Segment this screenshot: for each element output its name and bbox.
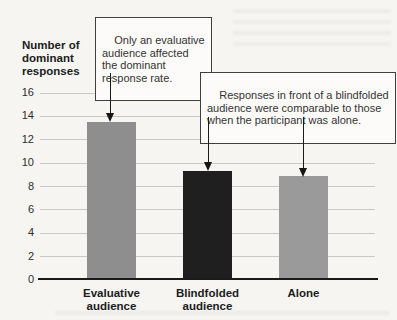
arrowhead-icon — [299, 168, 307, 177]
bar-evaluative-audience — [87, 122, 136, 280]
annotation-box-blindfolded-alone: Responses in front of a blindfolded audi… — [200, 72, 396, 144]
annotation-text: Only an evaluative audience affected the… — [102, 34, 205, 83]
y-tick-label: 16 — [4, 86, 34, 98]
x-axis-line — [38, 278, 378, 280]
arrow-to-blindfolded-bar — [208, 117, 210, 162]
scan-bleedthrough-artifact — [233, 6, 391, 52]
annotation-box-evaluative: Only an evaluative audience affected the… — [95, 17, 212, 101]
y-tick-label: 2 — [4, 250, 34, 262]
annotation-text: Responses in front of a blindfolded audi… — [207, 89, 389, 126]
y-tick-label: 8 — [4, 180, 34, 192]
arrowhead-icon — [106, 113, 114, 122]
bar-chart-figure: Number of dominant responses 02468101214… — [0, 0, 397, 320]
y-tick-label: 6 — [4, 203, 34, 215]
y-tick-label: 14 — [4, 109, 34, 121]
arrow-to-alone-bar — [303, 117, 305, 168]
x-category-label: Alone — [244, 287, 364, 300]
y-tick-label: 0 — [4, 273, 34, 285]
arrowhead-icon — [204, 162, 212, 171]
y-tick-label: 4 — [4, 226, 34, 238]
y-tick-label: 12 — [4, 133, 34, 145]
bar-blindfolded-audience — [183, 171, 232, 280]
y-axis-title: Number of dominant responses — [22, 39, 80, 78]
y-tick-label: 10 — [4, 156, 34, 168]
arrow-to-evaluative-bar — [110, 73, 112, 113]
bar-alone — [279, 176, 328, 280]
